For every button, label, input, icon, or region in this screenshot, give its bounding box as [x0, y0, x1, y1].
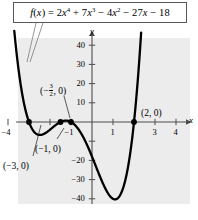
- term2-exponent: 3: [92, 6, 96, 13]
- fraction-numerator: 3: [49, 83, 53, 90]
- term3-exponent: 2: [117, 6, 121, 13]
- term1-exponent: 4: [67, 6, 71, 13]
- root-two-label: (2, 0): [141, 108, 162, 118]
- operator-1: +: [73, 7, 79, 18]
- equation-text: f(x) = 2x4 + 7x3 − 4x2 − 27x − 18: [30, 7, 170, 18]
- equation-callout-box: f(x) = 2x4 + 7x3 − 4x2 − 27x − 18: [13, 2, 187, 23]
- root-neg-three-halves-label: (−32, 0): [40, 83, 66, 98]
- callout-leader-lines: [27, 23, 43, 62]
- polynomial-graph-figure: f(x) = 2x4 + 7x3 − 4x2 − 27x − 18: [0, 0, 198, 220]
- operator-2: −: [98, 7, 104, 18]
- term4-coefficient: 27: [132, 7, 143, 18]
- callout-leader-line-1: [27, 23, 36, 62]
- equation-paren-close: ): [42, 7, 46, 18]
- root-neg-one-label: (−1, 0): [35, 144, 61, 154]
- operator-3: −: [123, 7, 129, 18]
- term4-variable: x: [143, 7, 148, 18]
- term5-constant: 18: [159, 7, 170, 18]
- fraction-three-halves: 32: [49, 83, 53, 98]
- leader-line-root-neg-three-halves: [64, 96, 70, 118]
- frac-comma-zero: , 0): [54, 86, 67, 96]
- root-neg-three-label: (−3, 0): [3, 161, 29, 171]
- leader-line-root-neg-one: [57, 128, 64, 139]
- equation-equals: =: [48, 7, 54, 18]
- callout-leader-line-2: [30, 23, 43, 62]
- leader-lines-layer: [0, 0, 198, 220]
- operator-4: −: [150, 7, 156, 18]
- fraction-denominator: 2: [49, 91, 53, 98]
- frac-minus: −: [43, 86, 48, 96]
